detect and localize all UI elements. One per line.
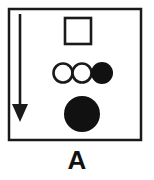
open-circle-middle xyxy=(73,64,92,83)
filled-circle-large xyxy=(64,96,100,132)
open-square xyxy=(65,18,91,44)
filled-circle-right xyxy=(91,62,113,84)
figure-panel: A xyxy=(0,0,154,180)
panel-label: A xyxy=(0,145,154,175)
open-circle-left xyxy=(54,64,73,83)
